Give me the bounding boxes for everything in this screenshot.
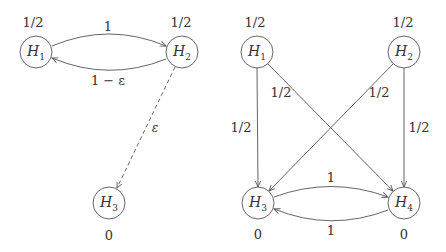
right-graph xyxy=(241,36,420,221)
right-node-h1-label: H1 xyxy=(248,44,266,62)
right-node-h3-label: H3 xyxy=(249,195,267,213)
left-edge-h2-h3 xyxy=(117,67,175,188)
right-edge-h1-h3-label: 1/2 xyxy=(231,121,252,134)
right-edge-h2-h4-label: 1/2 xyxy=(409,121,430,134)
right-h3-value: 0 xyxy=(254,228,262,241)
left-edge-h2-h1 xyxy=(52,58,166,70)
graph-edges xyxy=(0,0,446,252)
right-edge-h4-h3 xyxy=(274,209,388,221)
right-h2-value: 1/2 xyxy=(393,16,414,29)
right-edge-h2-h3-label: 1/2 xyxy=(369,86,390,99)
right-edge-h4-h3-label: 1 xyxy=(327,224,335,237)
left-edge-h1-h2-label: 1 xyxy=(104,20,112,33)
left-h2-value: 1/2 xyxy=(171,16,192,29)
right-edge-h3-h4 xyxy=(274,187,388,198)
left-node-h1-label: H1 xyxy=(27,44,45,62)
left-edge-h2-h3-label: ε xyxy=(152,122,158,134)
left-node-h3-label: H3 xyxy=(100,195,118,213)
left-h3-value: 0 xyxy=(105,229,113,242)
right-node-h4-label: H4 xyxy=(395,195,413,213)
left-node-h2-label: H2 xyxy=(173,44,191,62)
left-graph xyxy=(20,34,198,219)
right-node-h2-label: H2 xyxy=(395,44,413,62)
left-edge-h2-h1-label: 1 − ε xyxy=(91,74,125,87)
right-edge-h3-h4-label: 1 xyxy=(327,171,335,184)
right-edge-h1-h3 xyxy=(257,68,258,187)
right-edge-h1-h4-label: 1/2 xyxy=(271,86,292,99)
left-h1-value: 1/2 xyxy=(23,16,44,29)
left-edge-h1-h2 xyxy=(52,34,166,46)
right-h1-value: 1/2 xyxy=(245,16,266,29)
right-h4-value: 0 xyxy=(400,228,408,241)
diagram-canvas: H1 H2 H3 1/2 1/2 0 1 1 − ε ε H1 H2 H3 H4… xyxy=(0,0,446,252)
